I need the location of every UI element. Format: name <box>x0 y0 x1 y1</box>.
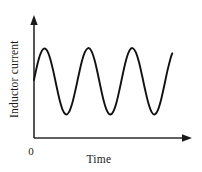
plot-canvas: Inductor current Time 0 <box>0 0 202 172</box>
origin-tick-label: 0 <box>28 145 34 157</box>
y-axis-label: Inductor current <box>8 40 20 118</box>
inductor-current-figure: Inductor current Time 0 <box>0 0 202 172</box>
x-axis-label: Time <box>86 153 111 165</box>
y-axis-arrow-icon <box>30 15 37 25</box>
inductor-current-waveform <box>34 48 172 115</box>
x-axis-arrow-icon <box>182 134 192 141</box>
